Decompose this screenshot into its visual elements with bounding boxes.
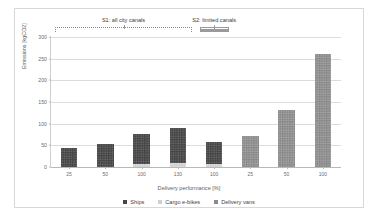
bar-segment-ships bbox=[97, 144, 114, 167]
bar[interactable] bbox=[315, 54, 332, 167]
scenario-bracket bbox=[55, 27, 193, 32]
plot-area: 050100150200250300 25501001301002550100 … bbox=[51, 37, 341, 167]
bar-segment-ships bbox=[170, 128, 187, 163]
bar-segment-ships bbox=[61, 148, 78, 167]
chart-card: Emissions [kgCO2] 050100150200250300 255… bbox=[14, 8, 364, 208]
x-axis-tick-label: 25 bbox=[248, 171, 254, 177]
y-axis-tick-mark bbox=[49, 58, 51, 59]
x-axis-tick-label: 100 bbox=[210, 171, 218, 177]
bar[interactable] bbox=[133, 134, 150, 167]
x-axis-tick-mark bbox=[287, 167, 288, 169]
gridline bbox=[51, 167, 341, 168]
legend-item-ships[interactable]: Ships bbox=[123, 199, 144, 205]
bar[interactable] bbox=[278, 110, 295, 167]
y-axis-tick-label: 50 bbox=[41, 142, 47, 148]
x-axis-tick-label: 50 bbox=[103, 171, 109, 177]
y-axis-tick-label: 250 bbox=[38, 56, 47, 62]
bar-segment-ships bbox=[206, 142, 223, 165]
x-axis-tick-label: 100 bbox=[319, 171, 327, 177]
bar-segment-ships bbox=[133, 134, 150, 164]
y-axis-tick-mark bbox=[49, 123, 51, 124]
x-axis-tick-mark bbox=[105, 167, 106, 169]
x-axis-tick-mark bbox=[69, 167, 70, 169]
scenario-label: S2: limited canals bbox=[192, 17, 236, 23]
gridline bbox=[51, 145, 341, 146]
scenario-bracket bbox=[200, 27, 229, 32]
y-axis-tick-label: 300 bbox=[38, 34, 47, 40]
gridline bbox=[51, 102, 341, 103]
x-axis-tick-mark bbox=[142, 167, 143, 169]
bar-segment-delivery-vans bbox=[315, 54, 332, 167]
bar[interactable] bbox=[242, 136, 259, 167]
legend-item-cargo-e-bikes[interactable]: Cargo e-bikes bbox=[158, 199, 200, 205]
gridline bbox=[51, 37, 341, 38]
legend-swatch-icon bbox=[158, 200, 162, 204]
y-axis-tick-mark bbox=[49, 102, 51, 103]
y-axis-tick-label: 100 bbox=[38, 121, 47, 127]
bar[interactable] bbox=[170, 128, 187, 167]
legend-item-delivery-vans[interactable]: Delivery vans bbox=[214, 199, 255, 205]
bracket-tick bbox=[124, 25, 125, 29]
x-axis-tick-mark bbox=[250, 167, 251, 169]
chart-legend: ShipsCargo e-bikesDelivery vans bbox=[15, 199, 363, 205]
legend-swatch-icon bbox=[214, 200, 218, 204]
x-axis-tick-label: 100 bbox=[137, 171, 145, 177]
x-axis-tick-label: 25 bbox=[66, 171, 72, 177]
bar-segment-delivery-vans bbox=[278, 110, 295, 167]
y-axis-tick-mark bbox=[49, 37, 51, 38]
x-axis-tick-mark bbox=[178, 167, 179, 169]
y-axis-tick-mark bbox=[49, 80, 51, 81]
x-axis-tick-mark bbox=[214, 167, 215, 169]
x-axis-tick-label: 50 bbox=[284, 171, 290, 177]
bar[interactable] bbox=[206, 142, 223, 167]
bar[interactable] bbox=[97, 144, 114, 167]
y-axis-tick-label: 200 bbox=[38, 77, 47, 83]
legend-label: Cargo e-bikes bbox=[165, 199, 200, 205]
legend-label: Ships bbox=[130, 199, 144, 205]
y-axis-tick-label: 0 bbox=[44, 164, 47, 170]
gridline bbox=[51, 59, 341, 60]
bar-segment-delivery-vans bbox=[242, 136, 259, 167]
x-axis-tick-mark bbox=[323, 167, 324, 169]
gridline bbox=[51, 124, 341, 125]
gridline bbox=[51, 80, 341, 81]
x-axis-tick-label: 130 bbox=[174, 171, 182, 177]
y-axis-title: Emissions [kgCO2] bbox=[21, 23, 27, 69]
y-axis-tick-mark bbox=[49, 167, 51, 168]
scenario-label: S1: all city canals bbox=[102, 17, 145, 23]
bracket-tick bbox=[214, 25, 215, 29]
x-axis-title: Delivery performance [%] bbox=[15, 185, 363, 191]
y-axis-tick-mark bbox=[49, 145, 51, 146]
legend-swatch-icon bbox=[123, 200, 127, 204]
legend-label: Delivery vans bbox=[221, 199, 255, 205]
bar[interactable] bbox=[61, 148, 78, 167]
y-axis-tick-label: 150 bbox=[38, 99, 47, 105]
